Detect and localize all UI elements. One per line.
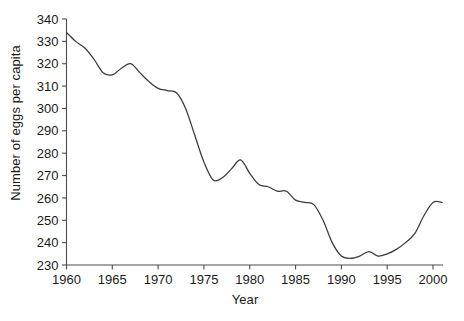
x-axis-tick-marks <box>67 265 434 270</box>
y-tick-label: 280 <box>37 146 59 161</box>
y-axis-tick-marks <box>62 19 67 265</box>
x-tick-label: 1970 <box>144 272 173 287</box>
y-tick-label: 250 <box>37 213 59 228</box>
y-tick-label: 260 <box>37 191 59 206</box>
x-axis-title: Year <box>190 292 300 307</box>
y-axis-tick-labels: 230240250260270280290300310320330340 <box>37 12 59 273</box>
y-tick-label: 240 <box>37 235 59 250</box>
y-tick-label: 230 <box>37 258 59 273</box>
y-tick-label: 300 <box>37 101 59 116</box>
chart-figure: 230240250260270280290300310320330340 196… <box>0 0 464 321</box>
x-tick-label: 1965 <box>98 272 127 287</box>
x-tick-label: 1995 <box>373 272 402 287</box>
y-axis-title: Number of eggs per capita <box>8 0 26 248</box>
y-tick-label: 340 <box>37 12 59 27</box>
x-axis-tick-labels: 196019651970197519801985199019952000 <box>52 272 447 287</box>
line-chart-plot: 230240250260270280290300310320330340 196… <box>0 0 464 321</box>
x-tick-label: 1985 <box>281 272 310 287</box>
x-tick-label: 2000 <box>419 272 448 287</box>
x-tick-label: 1960 <box>52 272 81 287</box>
y-tick-label: 320 <box>37 56 59 71</box>
y-tick-label: 330 <box>37 34 59 49</box>
y-tick-label: 310 <box>37 79 59 94</box>
y-tick-label: 270 <box>37 168 59 183</box>
x-tick-label: 1980 <box>235 272 264 287</box>
x-tick-label: 1975 <box>189 272 218 287</box>
y-tick-label: 290 <box>37 123 59 138</box>
x-tick-label: 1990 <box>327 272 356 287</box>
data-series-line <box>67 32 443 258</box>
